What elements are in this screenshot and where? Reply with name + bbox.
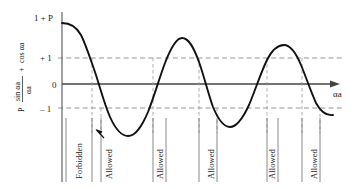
band-label-text: Allowed	[267, 148, 277, 179]
y-tick-label-top: 1 + P	[34, 13, 53, 23]
band-label-text: Forbidden	[74, 143, 84, 179]
y-tick-label-minus-one: – 1	[39, 104, 51, 114]
band-label-allowed-5: Allowed	[309, 148, 319, 179]
band-label-text: Allowed	[206, 148, 216, 179]
band-label-forbidden: Forbidden	[74, 143, 84, 179]
band-label-allowed-1: Allowed	[104, 148, 114, 179]
y-tick-label-plus-one: + 1	[40, 53, 52, 63]
band-label-allowed-4: Allowed	[267, 148, 277, 179]
y-axis-label-plus: +	[17, 67, 26, 72]
plot-background	[0, 0, 362, 189]
x-axis-label: αa	[333, 89, 342, 99]
band-label-allowed-2: Allowed	[155, 148, 165, 179]
band-label-text: Allowed	[155, 148, 165, 179]
y-axis-label-p: P	[17, 107, 26, 112]
band-label-text: Allowed	[309, 148, 319, 179]
kronig-penney-plot: P sin αa αa + cos αa 1 + P + 1 0 – 1 αa	[0, 0, 362, 189]
y-axis-label-cos: cos αa	[17, 42, 26, 63]
band-label-text: Allowed	[104, 148, 114, 179]
y-axis-label-numerator: sin αa	[13, 81, 22, 101]
y-tick-label-zero: 0	[52, 80, 57, 90]
y-axis-label-denominator: αa	[24, 86, 33, 94]
band-label-allowed-3: Allowed	[206, 148, 216, 179]
